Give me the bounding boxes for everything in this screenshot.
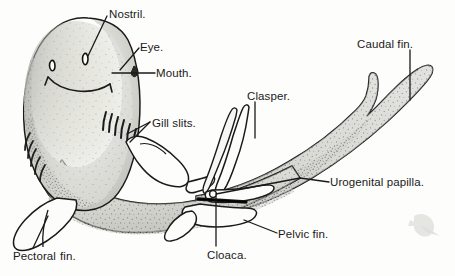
label-clasper: Clasper. <box>247 90 290 102</box>
label-nostril: Nostril. <box>109 8 146 20</box>
label-mouth: Mouth. <box>156 67 192 79</box>
leader-pelvic-fin <box>244 220 277 233</box>
label-pectoral-fin-word1: Pectoral <box>13 250 56 262</box>
label-eye: Eye. <box>140 41 163 53</box>
label-pelvic-fin: Pelvic fin. <box>278 228 328 240</box>
page-smudge <box>408 214 440 237</box>
label-gill-slits: Gill slits. <box>152 117 196 129</box>
label-caudal-fin: Caudal fin. <box>357 38 413 50</box>
clasper-shape <box>203 105 249 195</box>
label-urogenital-papilla: Urogenital papilla. <box>330 176 424 188</box>
label-pectoral-fin: Pectoralfin. <box>13 250 76 262</box>
shark-anatomy-figure: Nostril. Eye. Mouth. Gill slits. Clasper… <box>0 0 455 276</box>
shark-body-group <box>13 18 440 251</box>
pectoral-fin-shape <box>13 198 76 251</box>
head-shape <box>18 18 143 218</box>
label-cloaca: Cloaca. <box>207 249 247 261</box>
label-pectoral-fin-word2: fin. <box>60 250 76 262</box>
